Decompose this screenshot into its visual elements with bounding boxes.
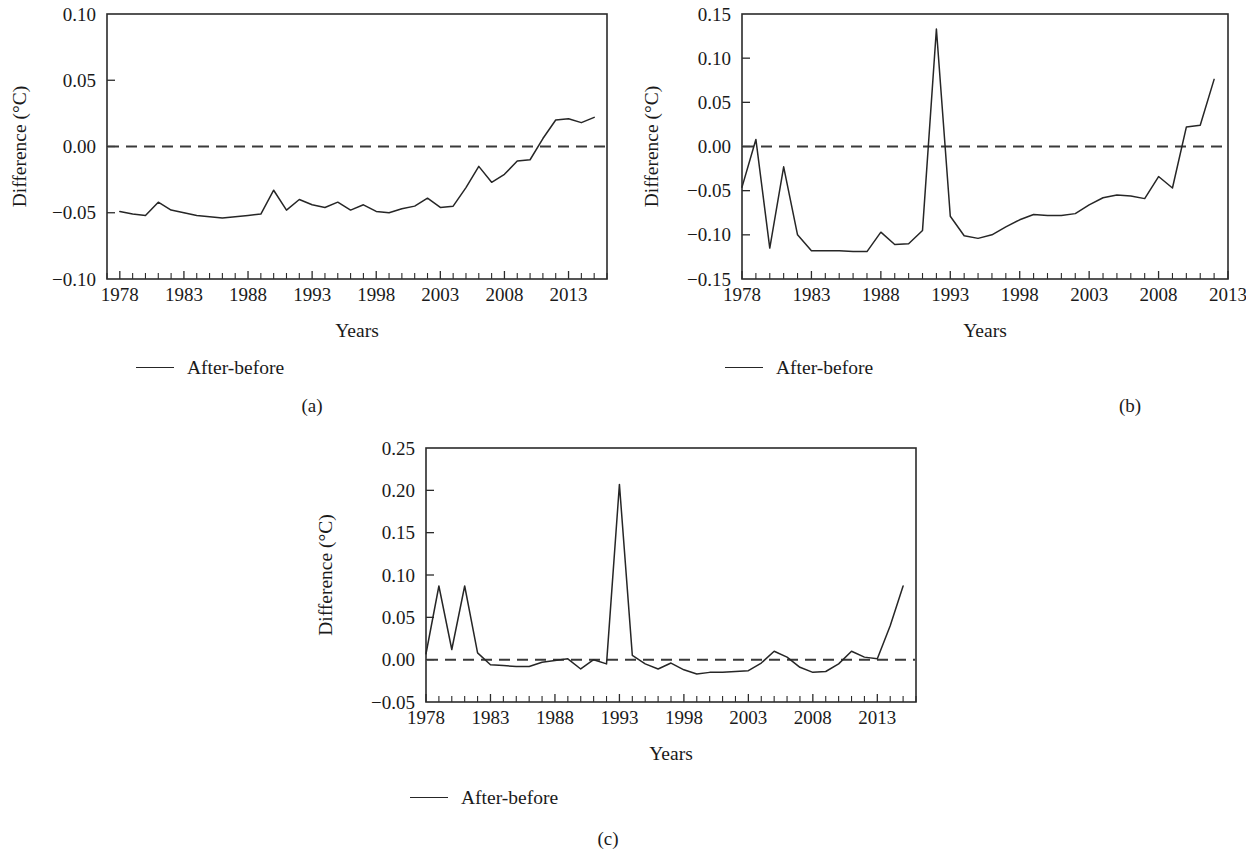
panel-a: 19781983198819931998200320082013−0.10−0.… [0,0,630,420]
panel-b-caption: (b) [1090,395,1170,417]
legend-label-after-before: After-before [776,358,873,378]
x-axis-tick-label: 2013 [550,284,588,305]
y-axis-tick-label: 0.10 [698,48,731,69]
x-axis-tick-label: 1993 [600,707,638,728]
y-axis-title: Difference (°C) [9,86,31,208]
data-series-after-before [742,29,1214,252]
panel-a-caption: (a) [272,395,352,417]
y-axis-tick-label: 0.25 [382,438,415,459]
legend-line-swatch [725,367,763,368]
x-axis-title: Years [649,743,693,764]
data-series-after-before [426,484,903,674]
x-axis-title: Years [963,320,1007,341]
x-axis-tick-label: 1998 [665,707,703,728]
panel-c: 19781983198819931998200320082013−0.050.0… [300,430,946,850]
y-axis-tick-label: 0.00 [698,136,731,157]
y-axis-title: Difference (°C) [315,514,337,636]
y-axis-title: Difference (°C) [641,86,663,208]
x-axis-title: Years [335,320,379,341]
panel-b-chart: 19781983198819931998200320082013−0.15−0.… [630,0,1246,340]
y-axis-tick-label: 0.00 [63,136,96,157]
x-axis-tick-label: 1983 [165,284,203,305]
x-axis-tick-label: 1988 [862,284,900,305]
y-axis-tick-label: 0.10 [63,4,96,25]
x-axis-tick-label: 1988 [229,284,267,305]
y-axis-tick-label: 0.05 [63,70,96,91]
figure-root: 19781983198819931998200320082013−0.10−0.… [0,0,1246,850]
x-axis-tick-label: 2013 [858,707,896,728]
legend-label-after-before: After-before [461,788,558,808]
panel-a-chart: 19781983198819931998200320082013−0.10−0.… [0,0,630,340]
legend-line-swatch [410,797,448,798]
x-axis-tick-label: 2003 [729,707,767,728]
x-axis-tick-label: 2008 [1140,284,1178,305]
x-axis-tick-label: 1988 [536,707,574,728]
y-axis-tick-label: 0.10 [382,565,415,586]
panel-b: 19781983198819931998200320082013−0.15−0.… [630,0,1246,420]
x-axis-tick-label: 1993 [293,284,331,305]
panel-c-caption: (c) [568,828,648,850]
y-axis-tick-label: −0.10 [687,224,731,245]
legend-label-after-before: After-before [187,358,284,378]
x-axis-tick-label: 1983 [792,284,830,305]
x-axis-tick-label: 1993 [931,284,969,305]
legend-line-swatch [136,367,174,368]
panel-c-legend: After-before [410,788,558,808]
y-axis-tick-label: 0.20 [382,480,415,501]
x-axis-tick-label: 2008 [485,284,523,305]
y-axis-tick-label: 0.05 [698,92,731,113]
y-axis-tick-label: 0.15 [698,4,731,25]
y-axis-tick-label: −0.15 [687,269,731,290]
plot-frame [426,448,916,702]
x-axis-tick-label: 2003 [421,284,459,305]
y-axis-tick-label: −0.05 [52,202,96,223]
x-axis-tick-label: 2008 [794,707,832,728]
panel-b-legend: After-before [725,358,873,378]
x-axis-tick-label: 1983 [471,707,509,728]
data-series-after-before [120,117,594,218]
x-axis-tick-label: 2013 [1209,284,1246,305]
y-axis-tick-label: −0.05 [687,180,731,201]
y-axis-tick-label: 0.05 [382,607,415,628]
panel-c-chart: 19781983198819931998200320082013−0.050.0… [300,430,946,770]
x-axis-tick-label: 2003 [1070,284,1108,305]
y-axis-tick-label: −0.05 [371,692,415,713]
x-axis-tick-label: 1998 [357,284,395,305]
y-axis-tick-label: 0.00 [382,649,415,670]
x-axis-tick-label: 1998 [1001,284,1039,305]
y-axis-tick-label: −0.10 [52,269,96,290]
y-axis-tick-label: 0.15 [382,522,415,543]
x-axis-tick-label: 1978 [101,284,139,305]
panel-a-legend: After-before [136,358,284,378]
